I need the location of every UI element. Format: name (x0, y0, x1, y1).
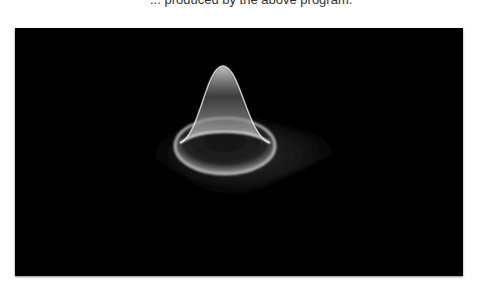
figure-caption: ... produced by the above program. (150, 0, 352, 7)
render-panel (15, 28, 463, 276)
gaussian-surface-render (15, 28, 463, 276)
